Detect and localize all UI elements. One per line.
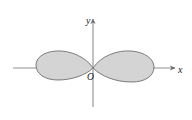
origin-label: O [87,73,94,83]
y-axis-label: y [86,16,90,26]
figure-canvas [0,0,192,120]
lemniscate-left-lobe [36,51,93,80]
lemniscate-right-lobe [93,51,154,82]
x-axis-label: x [178,65,182,75]
math-figure: y x O [0,0,192,120]
